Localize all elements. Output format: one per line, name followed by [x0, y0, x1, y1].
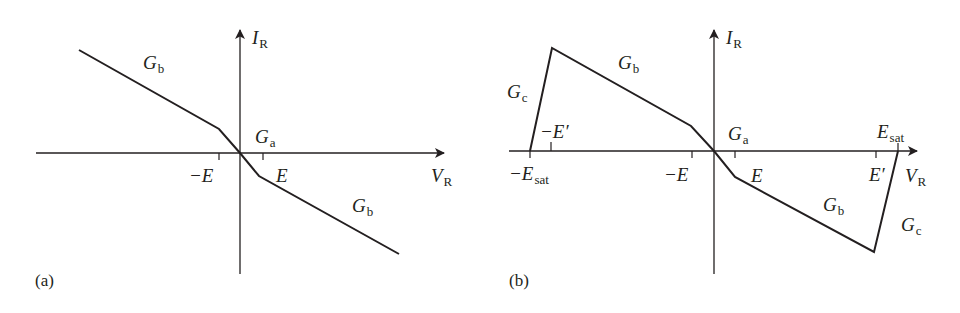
label-pos-e-a: E	[276, 166, 288, 185]
label-gb-lower-b: Gb	[823, 195, 844, 217]
label-neg-e-prime: −E′	[540, 122, 569, 141]
label-e-sat: Esat	[877, 122, 904, 144]
axis-label-vr-a: VR	[431, 166, 452, 188]
axis-label-ir-a: IR	[252, 28, 268, 50]
label-ga-a: Ga	[255, 127, 276, 149]
caption-b: (b)	[509, 272, 529, 289]
axis-label-vr-b: VR	[905, 166, 926, 188]
diagram-canvas	[0, 0, 960, 313]
label-neg-e-b: −E	[664, 165, 688, 184]
label-ga-b: Ga	[728, 124, 749, 146]
label-gb-lower-a: Gb	[352, 196, 373, 218]
label-gc-right: Gc	[901, 215, 922, 237]
label-gb-upper-a: Gb	[143, 53, 164, 75]
label-neg-e-a: −E	[189, 166, 213, 185]
label-gb-upper-b: Gb	[618, 53, 639, 75]
panel-b	[509, 30, 917, 274]
panel-a	[36, 30, 444, 274]
axis-label-ir-b: IR	[726, 28, 742, 50]
label-neg-e-sat: −Esat	[509, 164, 549, 186]
label-gc-left: Gc	[507, 82, 528, 104]
label-e-prime: E′	[869, 165, 885, 184]
characteristic-curve-a	[79, 50, 399, 254]
label-pos-e-b: E	[751, 166, 763, 185]
caption-a: (a)	[35, 272, 54, 289]
